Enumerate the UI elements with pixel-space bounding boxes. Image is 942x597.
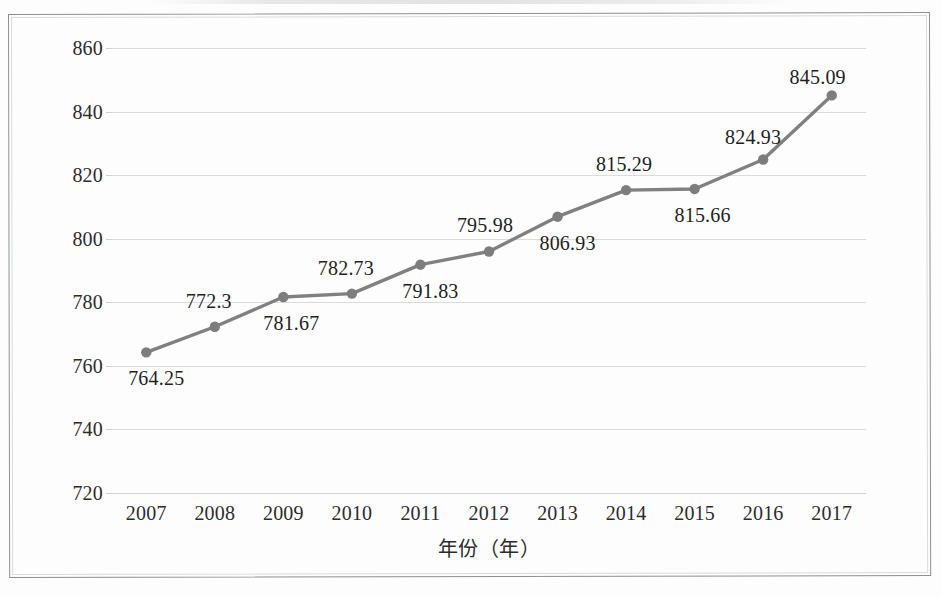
y-axis-tick-label: 740: [72, 419, 103, 439]
x-axis-tick-label: 2008: [194, 503, 235, 523]
x-axis-tick-label: 2016: [743, 503, 784, 523]
data-point-label: 824.93: [725, 127, 781, 147]
y-axis-tick-label: 800: [72, 229, 103, 249]
gridline: [112, 493, 866, 494]
scan-artifact: [150, 0, 790, 4]
x-axis-tick-label: 2012: [469, 503, 510, 523]
x-axis-tick-label: 2014: [606, 503, 647, 523]
y-axis-tick-label: 720: [72, 483, 103, 503]
data-point-label: 815.66: [675, 205, 731, 225]
data-point-marker: [758, 154, 768, 164]
x-axis-tick-label: 2017: [811, 503, 852, 523]
x-axis-tick-label: 2009: [263, 503, 304, 523]
data-point-marker: [621, 185, 631, 195]
x-axis-tick-label: 2007: [126, 503, 167, 523]
x-axis-tick-label: 2013: [537, 503, 578, 523]
chart-figure: 720740760780800820840860 764.25772.3781.…: [0, 0, 942, 597]
data-point-marker: [484, 246, 494, 256]
plot-area: 720740760780800820840860 764.25772.3781.…: [112, 48, 866, 493]
data-point-label: 782.73: [318, 258, 374, 278]
x-axis-tick-label: 2010: [332, 503, 373, 523]
y-axis-tick-label: 860: [72, 38, 103, 58]
y-axis-tick-label: 840: [72, 102, 103, 122]
data-point-marker: [689, 184, 699, 194]
data-point-label: 791.83: [402, 281, 458, 301]
data-point-marker: [278, 292, 288, 302]
data-point-label: 795.98: [457, 215, 513, 235]
data-point-label: 806.93: [539, 233, 595, 253]
x-axis-title: 年份（年）: [112, 533, 866, 562]
data-point-label: 845.09: [790, 67, 846, 87]
line-series: [112, 48, 866, 493]
data-point-marker: [552, 211, 562, 221]
data-point-label: 764.25: [128, 368, 184, 388]
data-point-marker: [141, 347, 151, 357]
data-point-marker: [210, 322, 220, 332]
data-point-label: 815.29: [596, 154, 652, 174]
data-point-marker: [347, 288, 357, 298]
data-point-label: 781.67: [263, 313, 319, 333]
y-axis-tick-mark: [106, 493, 112, 494]
y-axis-tick-label: 780: [72, 292, 103, 312]
data-point-marker: [827, 90, 837, 100]
y-axis-tick-label: 820: [72, 165, 103, 185]
data-point-marker: [415, 259, 425, 269]
x-axis-tick-label: 2011: [400, 503, 440, 523]
y-axis-tick-label: 760: [72, 356, 103, 376]
x-axis-tick-label: 2015: [674, 503, 715, 523]
data-point-label: 772.3: [186, 291, 232, 311]
